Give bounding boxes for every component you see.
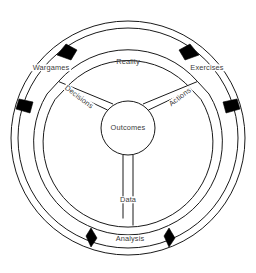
diagram-canvas: Wargames Reality Exercises Decisions Act…	[0, 0, 256, 273]
spoke-actions-elbow-b	[198, 82, 210, 95]
label-outcomes: Outcomes	[111, 124, 146, 131]
wheel-diagram-svg	[0, 0, 256, 273]
label-data: Data	[118, 196, 137, 203]
label-wargames: Wargames	[31, 64, 71, 71]
inner-ring-arc-left-inner	[43, 100, 91, 219]
inner-ring-arc-bottom-inner	[91, 219, 165, 228]
spoke-decisions-elbow-b	[47, 82, 59, 95]
label-analysis: Analysis	[114, 235, 146, 242]
arrow-outer-bottom-left-icon	[86, 228, 97, 247]
arrow-outer-left-icon	[16, 99, 33, 113]
arrow-outer-right-icon	[223, 99, 240, 113]
arrow-outer-bottom-right-icon	[164, 228, 175, 247]
label-exercises: Exercises	[189, 64, 225, 71]
inner-ring-arc-right-inner	[165, 100, 213, 219]
arrow-outer-top-left-icon	[57, 44, 77, 60]
arrow-outer-top-right-icon	[179, 44, 199, 60]
label-reality: Reality	[116, 58, 140, 65]
